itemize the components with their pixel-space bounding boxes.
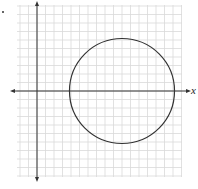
x-axis-left-arrow-icon [10,89,15,93]
corner-mark [2,11,4,13]
y-axis-down-arrow-icon [35,177,39,182]
axes [10,1,191,182]
coordinate-plane [0,0,198,189]
y-axis-up-arrow-icon [35,1,39,6]
x-axis-label: x [191,84,196,96]
